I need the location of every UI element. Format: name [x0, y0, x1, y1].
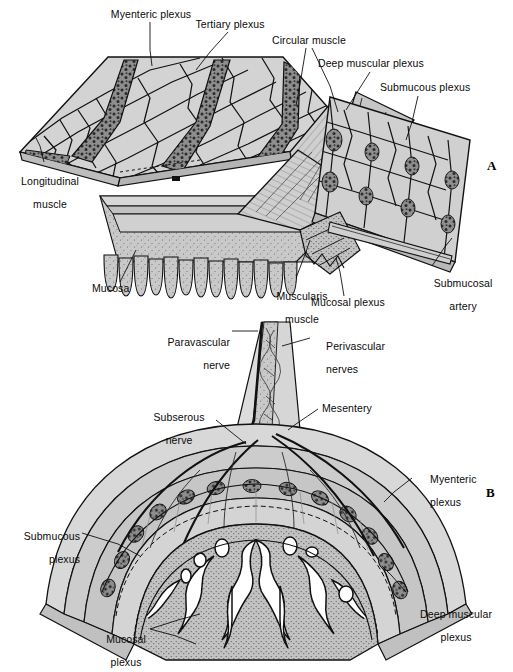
- label-submucous-plexus-b-line1: Submucous: [24, 530, 80, 542]
- label-mucosal-plexus: Mucosal plexus: [300, 297, 396, 309]
- label-tertiary-plexus: Tertiary plexus: [180, 19, 280, 31]
- panel-letter-b: B: [486, 485, 495, 501]
- label-mesentery: Mesentery: [322, 403, 372, 415]
- label-longitudinal-muscle-line2: muscle: [33, 198, 67, 210]
- label-submucosal-artery: Submucosal artery: [412, 266, 502, 324]
- panel-letter-a: A: [487, 158, 496, 174]
- label-subserous-nerve-line1: Subserous: [153, 411, 204, 423]
- label-deep-muscular-plexus: Deep muscular plexus: [318, 58, 424, 70]
- label-paravascular-nerve-line2: nerve: [203, 359, 230, 371]
- label-myenteric-plexus-b-line1: Myenteric: [430, 473, 476, 485]
- label-submucous-plexus-b-line2: plexus: [49, 553, 80, 565]
- label-submucosal-artery-line2: artery: [449, 300, 476, 312]
- label-submucous-plexus-b: Submucous plexus: [0, 519, 80, 577]
- label-longitudinal-muscle-line1: Longitudinal: [21, 175, 79, 187]
- label-submucous-plexus: Submucous plexus: [380, 82, 470, 94]
- label-paravascular-nerve-line1: Paravascular: [168, 336, 230, 348]
- label-submucosal-artery-line1: Submucosal: [434, 277, 493, 289]
- label-deep-muscular-plexus-b-line1: Deep muscular: [420, 608, 492, 620]
- label-perivascular-nerves-line2: nerves: [326, 363, 358, 375]
- label-muscularis-muscle-line2: muscle: [285, 313, 319, 325]
- label-subserous-nerve: Subserous nerve: [128, 400, 218, 458]
- label-myenteric-plexus-b-line2: plexus: [430, 496, 461, 508]
- label-myenteric-plexus-b: Myenteric plexus: [418, 462, 477, 520]
- label-deep-muscular-plexus-b: Deep muscular plexus: [398, 597, 502, 655]
- label-mucosal-plexus-b-line1: Mucosal: [106, 633, 146, 645]
- label-longitudinal-muscle: Longitudinal muscle: [4, 164, 84, 222]
- label-mucosal-plexus-b-line2: plexus: [111, 656, 142, 668]
- label-mucosa: Mucosa: [92, 283, 129, 295]
- label-subserous-nerve-line2: nerve: [166, 434, 193, 446]
- label-perivascular-nerves-line1: Perivascular: [326, 340, 385, 352]
- label-mucosal-plexus-b: Mucosal plexus: [88, 622, 152, 672]
- label-paravascular-nerve: Paravascular nerve: [140, 325, 230, 383]
- label-circular-muscle: Circular muscle: [272, 35, 346, 47]
- label-deep-muscular-plexus-b-line2: plexus: [441, 631, 472, 643]
- label-perivascular-nerves: Perivascular nerves: [314, 329, 385, 387]
